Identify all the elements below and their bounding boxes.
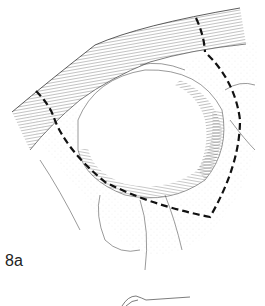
partial-next-figure xyxy=(122,296,190,306)
illustration xyxy=(0,0,265,306)
figure-label: 8a xyxy=(5,252,23,270)
lesion xyxy=(78,70,224,198)
